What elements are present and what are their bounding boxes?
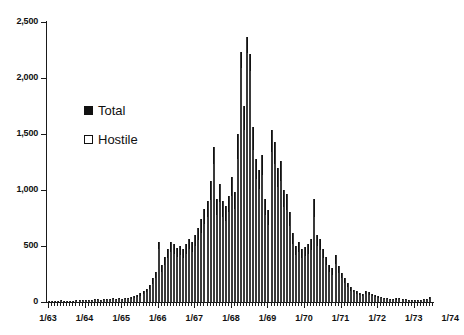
x-axis-tick (374, 303, 375, 306)
x-axis-tick (158, 303, 159, 308)
bar-total-cap (329, 265, 330, 272)
bar (398, 298, 400, 302)
bar (347, 283, 349, 302)
bar-total-cap (61, 300, 62, 301)
x-axis-tick (389, 303, 390, 306)
x-axis-tick (280, 303, 281, 306)
y-axis-tick-label: 1,000 (0, 184, 38, 194)
bar-total-cap (195, 235, 196, 246)
x-axis-tick (124, 303, 125, 306)
bar-total-cap (125, 298, 126, 299)
bar-total-cap (52, 301, 53, 302)
x-axis-tick (149, 303, 150, 306)
bar (325, 257, 327, 302)
bar (374, 295, 376, 302)
bar-total-cap (362, 294, 363, 296)
bar (295, 246, 297, 302)
x-axis-tick (347, 303, 348, 306)
x-axis-tick (88, 303, 89, 306)
bar-total-cap (429, 297, 430, 299)
x-axis-tick (167, 303, 168, 306)
bar-total-cap (277, 168, 278, 187)
x-axis-tick (103, 303, 104, 306)
x-axis-tick (54, 303, 55, 306)
bar-total-cap (387, 298, 388, 299)
bar-total-cap (247, 37, 248, 54)
bar-total-cap (82, 300, 83, 301)
x-axis-tick (240, 303, 241, 306)
bar (246, 37, 248, 302)
x-axis-tick (243, 303, 244, 306)
bar-total-cap (244, 106, 245, 130)
x-axis-tick (139, 303, 140, 306)
bar (170, 242, 172, 302)
bar-total-cap (317, 235, 318, 246)
bar-total-cap (353, 290, 354, 293)
bar (408, 300, 410, 302)
bar-total-cap (314, 199, 315, 217)
bar-total-cap (103, 299, 104, 300)
bar (188, 239, 190, 302)
bar-total-cap (116, 299, 117, 300)
bar-total-cap (228, 196, 229, 213)
x-axis-tick (398, 303, 399, 306)
x-axis-tick (75, 303, 76, 306)
x-axis-tick (179, 303, 180, 306)
x-axis-tick (417, 303, 418, 306)
x-axis-tick (210, 303, 211, 306)
bar (100, 300, 102, 302)
bar (350, 287, 352, 302)
bar (392, 299, 394, 302)
x-axis-tick (249, 303, 250, 306)
x-axis-tick (57, 303, 58, 306)
bar-total-cap (110, 299, 111, 300)
bar-total-cap (347, 283, 348, 287)
x-axis-tick (261, 303, 262, 306)
bar (338, 266, 340, 302)
x-axis-tick-label: 1/70 (284, 313, 324, 323)
bar (79, 300, 81, 302)
bar-total-cap (170, 242, 171, 252)
bar-total-cap (305, 247, 306, 256)
bar-total-cap (292, 233, 293, 244)
chart-legend: Total Hostile (84, 103, 138, 161)
bar (124, 298, 126, 302)
x-axis-tick (344, 303, 345, 306)
x-axis-tick (188, 303, 189, 306)
bar-total-cap (311, 239, 312, 250)
bar (164, 257, 166, 302)
x-axis-tick (161, 303, 162, 306)
bar (383, 298, 385, 302)
x-axis-tick (386, 303, 387, 306)
bar (405, 299, 407, 302)
x-axis-tick (368, 303, 369, 306)
x-axis-tick (118, 303, 119, 306)
x-axis-tick (277, 303, 278, 306)
x-axis-tick (182, 303, 183, 306)
x-axis-tick-label: 1/68 (211, 313, 251, 323)
x-axis-tick (69, 303, 70, 306)
bar-total-cap (414, 300, 415, 301)
bar (88, 300, 90, 302)
bar (213, 147, 215, 302)
bar (210, 181, 212, 302)
bar (231, 177, 233, 302)
bar (395, 298, 397, 302)
bar-total-cap (298, 242, 299, 252)
x-axis-tick (335, 303, 336, 306)
bar-total-cap (219, 184, 220, 202)
bar-total-cap (85, 300, 86, 301)
x-axis-tick (191, 303, 192, 306)
bar-total-cap (164, 257, 165, 265)
bar-total-cap (67, 301, 68, 302)
x-axis-tick-label: 1/65 (101, 313, 141, 323)
bar (411, 300, 413, 302)
x-axis-tick (155, 303, 156, 306)
x-axis-tick (91, 303, 92, 306)
bar (277, 168, 279, 302)
bar-total-cap (198, 228, 199, 240)
x-axis-tick (216, 303, 217, 306)
bar (255, 159, 257, 302)
bar (97, 299, 99, 302)
bar-total-cap (113, 298, 114, 299)
